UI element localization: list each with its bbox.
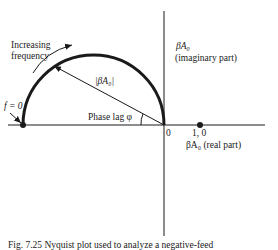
f-zero-point — [20, 122, 26, 128]
nyquist-plot — [0, 0, 278, 250]
imaginary-axis-label-line2: (imaginary part) — [175, 53, 237, 64]
f-zero-label: f = 0 — [4, 101, 23, 112]
f-zero-pointer — [10, 113, 21, 123]
figure-caption: Fig. 7.25 Nyquist plot used to analyze a… — [8, 240, 213, 250]
magnitude-label: |βA₀| — [95, 76, 114, 87]
imaginary-axis-label-line1: βA₀ — [176, 41, 190, 52]
phase-angle-arc — [141, 114, 143, 125]
real-axis-label: βA₀ (real part) — [186, 140, 241, 151]
origin-label: 0 — [166, 128, 171, 139]
increasing-label-line2: frequency — [11, 51, 49, 62]
increasing-label-line1: Increasing — [11, 40, 51, 51]
phase-lag-label: Phase lag φ — [88, 112, 132, 123]
unity-point-label: 1, 0 — [192, 128, 206, 139]
